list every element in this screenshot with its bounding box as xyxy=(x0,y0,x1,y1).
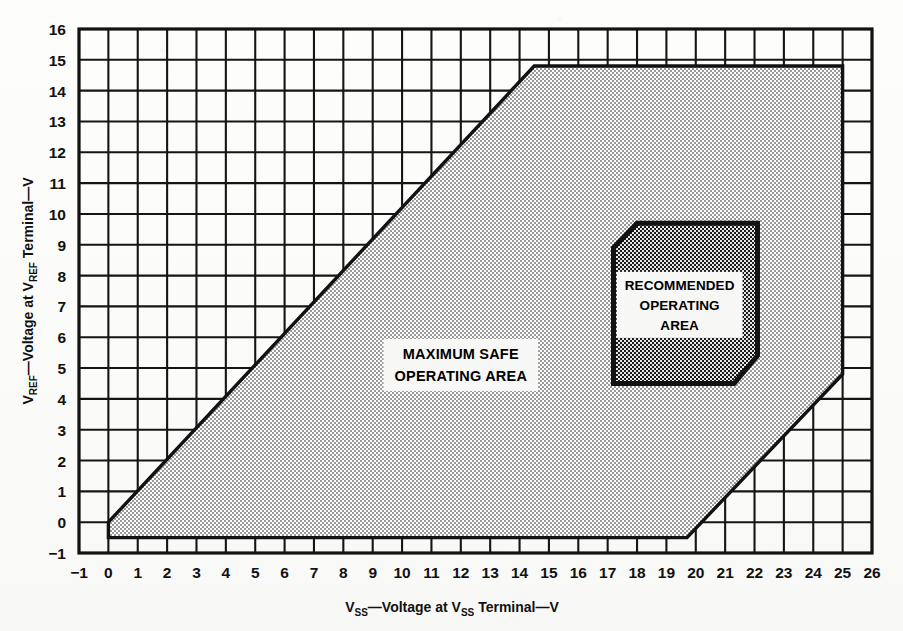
y-axis-title-post: Terminal—V xyxy=(20,177,36,262)
y-tick-label: 4 xyxy=(57,391,66,408)
x-tick-label: 5 xyxy=(251,564,260,581)
annotation-maximum-safe-line-2: OPERATING AREA xyxy=(395,368,528,384)
y-tick-label: 11 xyxy=(50,175,67,192)
x-tick-label: 10 xyxy=(393,564,410,581)
x-tick-label: 8 xyxy=(339,564,348,581)
x-axis-title: VSS—Voltage at VSS Terminal—V xyxy=(345,599,559,618)
x-tick-label: 17 xyxy=(599,564,616,581)
x-tick-label: 12 xyxy=(452,564,469,581)
y-tick-label: 8 xyxy=(57,268,66,285)
x-axis-tick-labels: −101234567891011121314151617181920212223… xyxy=(70,564,881,581)
x-tick-label: 0 xyxy=(104,564,113,581)
x-tick-label: 4 xyxy=(222,564,231,581)
y-tick-label: 16 xyxy=(49,21,67,38)
x-tick-label: 13 xyxy=(482,564,500,581)
x-tick-label: −1 xyxy=(70,564,88,581)
x-axis-title-pre-sub: SS xyxy=(355,607,369,618)
y-tick-label: 6 xyxy=(57,329,66,346)
annotation-maximum-safe-line-1: MAXIMUM SAFE xyxy=(403,346,519,362)
figure-safe-operating-area: −1012345678910111213141516 −101234567891… xyxy=(0,0,903,631)
y-tick-label: 5 xyxy=(57,360,66,377)
y-tick-label: 7 xyxy=(57,298,66,315)
y-axis-title: VREF—Voltage at VREF Terminal—V xyxy=(20,177,39,405)
svg-text:VREF—Voltage at VREF Terminal—: VREF—Voltage at VREF Terminal—V xyxy=(20,177,39,405)
y-axis-title-mid-sub: REF xyxy=(28,262,39,282)
y-tick-label: 15 xyxy=(49,52,67,69)
x-axis-title-mid-sub: SS xyxy=(461,607,475,618)
x-tick-label: 16 xyxy=(570,564,588,581)
x-tick-label: 3 xyxy=(192,564,201,581)
x-tick-label: 6 xyxy=(280,564,289,581)
x-tick-label: 21 xyxy=(717,564,735,581)
x-tick-label: 22 xyxy=(746,564,763,581)
y-tick-label: 2 xyxy=(57,453,66,470)
annotation-recommended-line-3: AREA xyxy=(660,318,699,333)
annotation-maximum-safe-operating-area: MAXIMUM SAFE OPERATING AREA xyxy=(384,339,539,391)
y-tick-label: 1 xyxy=(57,483,66,500)
y-axis-title-mid: —Voltage at V xyxy=(20,281,36,375)
x-tick-label: 25 xyxy=(834,564,852,581)
x-tick-label: 11 xyxy=(423,564,440,581)
annotation-recommended-operating-area: RECOMMENDED OPERATING AREA xyxy=(617,272,743,338)
y-tick-label: 9 xyxy=(57,237,66,254)
y-tick-label: 0 xyxy=(57,514,66,531)
y-tick-label: 12 xyxy=(49,144,66,161)
x-tick-label: 2 xyxy=(163,564,172,581)
x-tick-label: 18 xyxy=(628,564,646,581)
x-axis-title-mid: —Voltage at V xyxy=(368,599,462,615)
y-axis-tick-labels: −1012345678910111213141516 xyxy=(48,21,66,562)
annotation-recommended-line-2: OPERATING xyxy=(640,298,720,313)
x-tick-label: 9 xyxy=(368,564,377,581)
chart-svg: −1012345678910111213141516 −101234567891… xyxy=(0,0,903,631)
x-tick-label: 24 xyxy=(805,564,823,581)
x-axis-title-post: Terminal—V xyxy=(474,599,559,615)
y-tick-label: 13 xyxy=(49,113,67,130)
y-tick-label: 3 xyxy=(57,422,66,439)
x-tick-label: 15 xyxy=(540,564,558,581)
x-tick-label: 7 xyxy=(310,564,319,581)
y-tick-label: 14 xyxy=(49,83,67,100)
y-tick-label: 10 xyxy=(49,206,66,223)
annotation-recommended-line-1: RECOMMENDED xyxy=(625,278,735,293)
y-axis-title-pre-sub: REF xyxy=(28,375,39,395)
x-tick-label: 20 xyxy=(687,564,704,581)
x-tick-label: 26 xyxy=(863,564,881,581)
y-tick-label: −1 xyxy=(48,545,66,562)
svg-text:VSS—Voltage at VSS Terminal—V: VSS—Voltage at VSS Terminal—V xyxy=(345,599,559,618)
x-tick-label: 14 xyxy=(511,564,529,581)
x-tick-label: 1 xyxy=(133,564,142,581)
x-tick-label: 19 xyxy=(658,564,676,581)
x-tick-label: 23 xyxy=(775,564,793,581)
